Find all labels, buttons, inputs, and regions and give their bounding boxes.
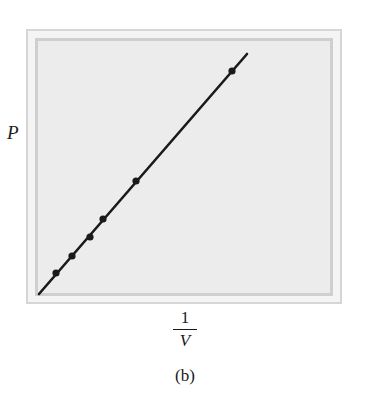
- data-point: [228, 67, 235, 74]
- data-point: [132, 177, 139, 184]
- data-point: [68, 252, 75, 259]
- fraction-bar: [173, 329, 197, 330]
- data-point: [99, 215, 106, 222]
- data-point: [86, 233, 93, 240]
- figure-caption: (b): [160, 366, 210, 386]
- y-axis-label: P: [7, 122, 19, 144]
- x-axis-denominator: V: [170, 332, 200, 350]
- x-axis-label: 1 V: [170, 309, 200, 350]
- data-point: [52, 269, 59, 276]
- x-axis-numerator: 1: [170, 309, 200, 327]
